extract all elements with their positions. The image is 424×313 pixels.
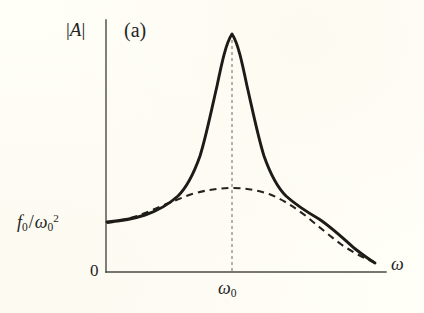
y-axis-label-symbol: A: [70, 19, 82, 40]
y-axis-label: |A|: [66, 20, 85, 39]
resonance-figure: |A| (a) f0/ω02 0 ω0 ω: [0, 0, 424, 313]
x-tick-symbol: ω: [218, 278, 231, 298]
series-sharp-resonance-solid: [107, 34, 375, 263]
x-tick-label-omega0: ω0: [218, 279, 236, 297]
x-axis-label: ω: [391, 255, 404, 273]
y-level-slash: /: [28, 212, 35, 232]
origin-tick-label: 0: [90, 262, 99, 279]
x-tick-sub: 0: [231, 287, 237, 299]
resonance-plot: [0, 0, 424, 313]
series-broad-resonance-dashed: [107, 188, 374, 262]
y-level-denominator: ω: [35, 212, 48, 232]
panel-label: (a): [124, 20, 146, 40]
y-axis-level-label: f0/ω02: [17, 213, 59, 231]
y-level-numerator-sub: 0: [22, 221, 28, 233]
y-level-denominator-sup: 2: [53, 212, 59, 224]
